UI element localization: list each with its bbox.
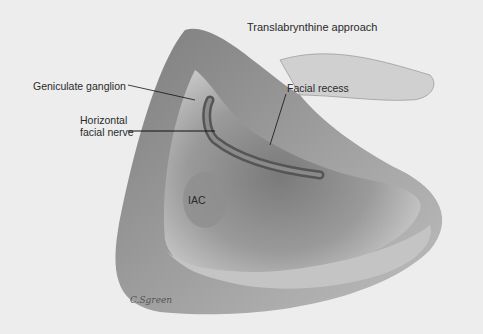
cavity-drawing xyxy=(0,0,483,334)
figure-title: Translabrynthine approach xyxy=(247,21,377,33)
label-geniculate-ganglion: Geniculate ganglion xyxy=(33,80,126,92)
label-iac: IAC xyxy=(188,194,206,206)
label-horizontal: Horizontal xyxy=(80,114,127,126)
label-facial-nerve: facial nerve xyxy=(80,126,134,138)
surgical-illustration: Translabrynthine approach Geniculate gan… xyxy=(0,0,483,334)
artist-signature: C.Sgreen xyxy=(130,294,172,306)
label-facial-recess: Facial recess xyxy=(287,82,349,94)
